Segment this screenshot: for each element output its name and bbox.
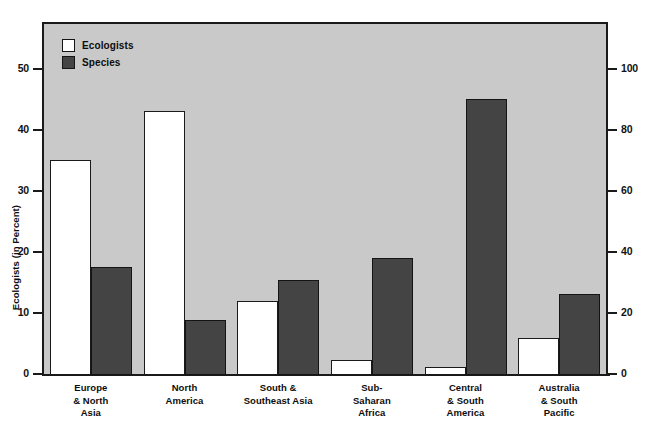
y-tick-label-left-50: 50 — [7, 62, 29, 74]
y-tick-mark-left-40 — [33, 129, 42, 131]
y-tick-label-right-20: 20 — [621, 306, 647, 318]
bar-species-6 — [559, 294, 600, 375]
bar-ecologists-1 — [50, 160, 91, 375]
y-tick-mark-right-20 — [608, 312, 617, 314]
y-tick-mark-left-20 — [33, 251, 42, 253]
bar-ecologists-6 — [518, 338, 559, 375]
bars-layer — [44, 24, 606, 375]
bar-ecologists-3 — [237, 301, 278, 375]
y-tick-mark-right-0 — [608, 373, 617, 375]
x-category-label-line: Pacific — [499, 407, 619, 420]
y-tick-mark-left-0 — [33, 373, 42, 375]
y-tick-mark-right-100 — [608, 68, 617, 70]
bar-species-4 — [372, 258, 413, 376]
y-tick-label-right-60: 60 — [621, 184, 647, 196]
y-tick-label-right-0: 0 — [621, 367, 647, 379]
bar-species-5 — [466, 99, 507, 375]
bar-species-1 — [91, 267, 132, 375]
legend-swatch-ecologists-icon — [62, 39, 75, 52]
y-tick-mark-right-40 — [608, 251, 617, 253]
x-category-label-line: & South — [499, 395, 619, 408]
bar-ecologists-5 — [425, 367, 466, 375]
chart-legend: Ecologists Species — [62, 38, 134, 69]
y-tick-label-right-40: 40 — [621, 245, 647, 257]
y-tick-mark-left-50 — [33, 68, 42, 70]
legend-entry-species: Species — [62, 55, 134, 69]
y-tick-mark-right-60 — [608, 190, 617, 192]
y-tick-label-left-40: 40 — [7, 123, 29, 135]
legend-swatch-species-icon — [62, 56, 75, 69]
y-tick-label-right-100: 100 — [621, 62, 647, 74]
y-tick-mark-left-30 — [33, 190, 42, 192]
y-tick-label-left-30: 30 — [7, 184, 29, 196]
chart-root: 01020304050020406080100 Ecologists (in P… — [0, 0, 657, 432]
y-tick-mark-left-10 — [33, 312, 42, 314]
x-category-label-line: Australia — [499, 382, 619, 395]
bar-ecologists-4 — [331, 360, 372, 375]
y-tick-label-left-0: 0 — [7, 367, 29, 379]
y-axis-title-left: Ecologists (in Percent) — [10, 198, 21, 318]
legend-label-ecologists: Ecologists — [82, 40, 134, 51]
bar-species-2 — [185, 320, 226, 375]
x-category-label-line: Asia — [31, 407, 151, 420]
y-tick-label-right-80: 80 — [621, 123, 647, 135]
legend-entry-ecologists: Ecologists — [62, 38, 134, 52]
x-category-label-6: Australia& SouthPacific — [499, 382, 619, 420]
bar-species-3 — [278, 280, 319, 375]
bar-ecologists-2 — [144, 111, 185, 375]
legend-label-species: Species — [82, 57, 121, 68]
y-tick-mark-right-80 — [608, 129, 617, 131]
